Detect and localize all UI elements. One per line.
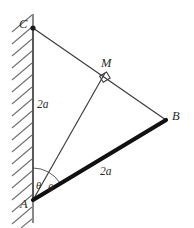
vertex-dot-C bbox=[30, 25, 35, 30]
vertex-label-M: M bbox=[101, 57, 111, 70]
vertex-label-C: C bbox=[19, 18, 27, 31]
angle-label-theta-left: θ bbox=[36, 181, 41, 192]
diagram-canvas bbox=[0, 0, 194, 228]
angle-label-theta-right: θ bbox=[48, 183, 53, 194]
segment-CB bbox=[33, 28, 166, 120]
segment-AM bbox=[33, 73, 105, 200]
geometry-figure: C B A M 2a 2a θ θ bbox=[0, 0, 194, 228]
length-label-AC: 2a bbox=[37, 99, 49, 111]
length-label-AB: 2a bbox=[100, 166, 112, 178]
vertex-label-A: A bbox=[20, 198, 28, 211]
vertex-label-B: B bbox=[172, 110, 180, 123]
